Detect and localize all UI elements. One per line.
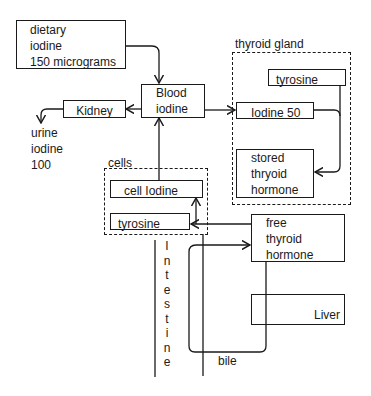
stored-line-3: hormone	[251, 182, 313, 198]
urine-line-3: 100	[31, 157, 63, 173]
intestine-letter: e	[162, 283, 172, 298]
blood-line-2: iodine	[156, 101, 204, 117]
iodine-50-box: Iodine 50	[236, 102, 314, 119]
thyroid-tyrosine-label: tyrosine	[276, 73, 318, 87]
dietary-iodine-box: dietary iodine 150 micrograms	[16, 20, 126, 69]
free-line-3: hormone	[266, 247, 344, 263]
free-thyroid-hormone-box: free thyroid hormone	[251, 214, 345, 262]
blood-line-1: Blood	[156, 85, 204, 101]
intestine-letter: t	[162, 268, 172, 283]
intestine-letter: i	[162, 326, 172, 341]
kidney-box: Kidney	[63, 100, 126, 118]
urine-line-1: urine	[31, 125, 63, 141]
bile-label: bile	[218, 353, 237, 369]
intestine-letter: n	[162, 341, 172, 356]
iodine-50-label: Iodine 50	[251, 106, 300, 120]
dietary-line-3: 150 micrograms	[30, 54, 125, 70]
intestine-letter: t	[162, 312, 172, 327]
intestine-label: I n t e s t i n e	[162, 239, 172, 370]
urine-line-2: iodine	[31, 141, 63, 157]
stored-line-2: thryoid	[251, 166, 313, 182]
liver-label: Liver	[314, 307, 340, 323]
liver-box: Liver	[251, 294, 345, 325]
thyroid-gland-label: thyroid gland	[235, 36, 304, 52]
dietary-line-1: dietary	[30, 22, 125, 38]
stored-line-1: stored	[251, 150, 313, 166]
cell-iodine-label: cell Iodine	[124, 184, 178, 198]
cell-tyrosine-label: tyrosine	[118, 217, 160, 231]
intestine-letter: n	[162, 254, 172, 269]
free-line-2: thyroid	[266, 231, 344, 247]
intestine-letter: s	[162, 297, 172, 312]
free-line-1: free	[266, 215, 344, 231]
dietary-line-2: iodine	[30, 38, 125, 54]
intestine-letter: I	[162, 239, 172, 254]
cell-iodine-box: cell Iodine	[110, 180, 203, 198]
stored-hormone-box: stored thryoid hormone	[236, 149, 314, 198]
blood-iodine-box: Blood iodine	[141, 84, 205, 118]
kidney-label: Kidney	[76, 104, 113, 118]
thyroid-tyrosine-box: tyrosine	[268, 69, 346, 86]
cell-tyrosine-box: tyrosine	[110, 213, 190, 230]
intestine-letter: e	[162, 355, 172, 370]
urine-iodine-label: urine iodine 100	[31, 125, 63, 173]
